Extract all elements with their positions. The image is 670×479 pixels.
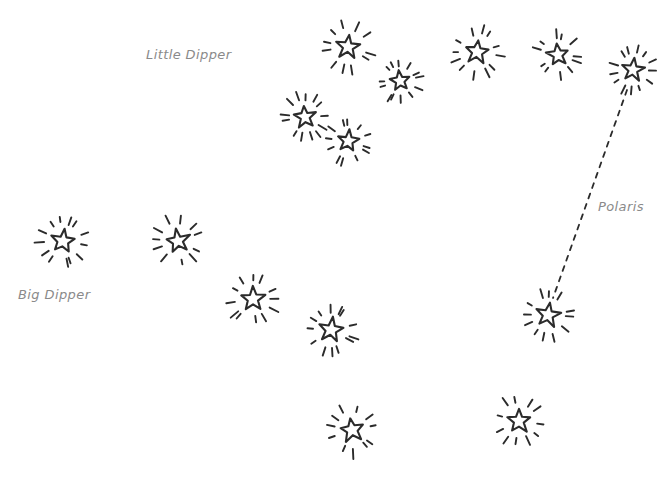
star-icon: [497, 397, 544, 445]
star-icon: [35, 217, 89, 267]
star-icon: [226, 275, 278, 322]
constellation-little-dipper: [281, 20, 656, 165]
star-icon: [524, 289, 574, 341]
polaris-pointer-line: [553, 90, 627, 298]
constellation-drawing: [0, 0, 670, 479]
star-icon: [451, 25, 504, 80]
constellation-big-dipper: [35, 216, 574, 459]
star-icon: [380, 61, 424, 103]
star-icon: [153, 216, 201, 265]
label-little-dipper: Little Dipper: [146, 47, 231, 62]
star-chart-canvas: Little Dipper Big Dipper Polaris: [0, 0, 670, 479]
label-polaris: Polaris: [598, 199, 644, 214]
star-icon: [281, 92, 328, 141]
star-icon: [308, 305, 359, 357]
star-icon: [533, 29, 581, 80]
star-icon: [323, 20, 376, 74]
label-big-dipper: Big Dipper: [18, 287, 90, 302]
star-icon: [610, 45, 656, 94]
star-icon: [327, 406, 376, 459]
star-icon: [326, 119, 370, 165]
